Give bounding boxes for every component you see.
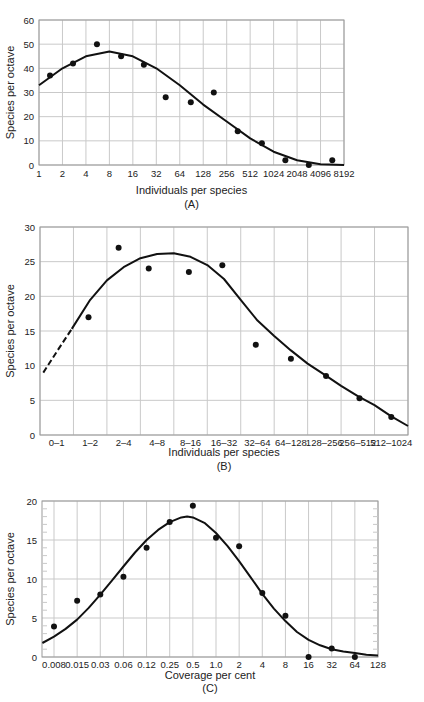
data-point bbox=[141, 62, 147, 68]
svg-text:512–1024: 512–1024 bbox=[370, 437, 412, 448]
x-axis-label: Individuals per species bbox=[136, 184, 248, 196]
y-axis-ticks: 05101520 bbox=[26, 496, 37, 663]
svg-text:60: 60 bbox=[23, 15, 34, 26]
grid bbox=[42, 501, 378, 657]
svg-text:16: 16 bbox=[303, 659, 314, 670]
y-axis-label: Species per octave bbox=[4, 284, 16, 378]
data-point bbox=[235, 128, 241, 134]
data-point bbox=[259, 590, 265, 596]
data-point bbox=[70, 61, 76, 67]
svg-text:20: 20 bbox=[26, 496, 37, 507]
svg-text:8: 8 bbox=[283, 659, 288, 670]
y-axis-label: Species per octave bbox=[4, 46, 16, 140]
data-point bbox=[116, 245, 122, 251]
data-points bbox=[86, 245, 395, 420]
grid bbox=[40, 227, 408, 435]
svg-text:25: 25 bbox=[24, 256, 35, 267]
species-abundance-figure: 0102030405060124816326412825651210242048… bbox=[0, 0, 424, 702]
svg-text:128: 128 bbox=[370, 659, 386, 670]
data-point bbox=[146, 266, 152, 272]
figure-caption: (B) bbox=[217, 460, 232, 472]
data-point bbox=[329, 157, 335, 163]
svg-text:50: 50 bbox=[23, 39, 34, 50]
figure-caption: (A) bbox=[184, 198, 199, 210]
svg-text:1: 1 bbox=[36, 168, 41, 179]
svg-text:0.12: 0.12 bbox=[137, 659, 156, 670]
figure-caption: (C) bbox=[202, 682, 217, 694]
data-point bbox=[211, 90, 217, 96]
data-point bbox=[356, 395, 362, 401]
data-point bbox=[306, 654, 312, 660]
data-point bbox=[352, 654, 358, 660]
data-point bbox=[306, 162, 312, 168]
chart-a: 0102030405060124816326412825651210242048… bbox=[4, 15, 355, 211]
data-points bbox=[51, 503, 358, 660]
data-points bbox=[47, 41, 335, 168]
data-point bbox=[47, 73, 53, 79]
data-point bbox=[118, 53, 124, 59]
svg-text:0.008: 0.008 bbox=[42, 659, 66, 670]
svg-text:0.06: 0.06 bbox=[114, 659, 133, 670]
svg-text:2: 2 bbox=[60, 168, 65, 179]
svg-text:2–4: 2–4 bbox=[116, 437, 132, 448]
data-point bbox=[51, 624, 57, 630]
svg-text:4: 4 bbox=[83, 168, 88, 179]
svg-text:0: 0 bbox=[29, 160, 34, 171]
fitted-curve bbox=[42, 517, 378, 656]
svg-text:10: 10 bbox=[23, 135, 34, 146]
svg-text:5: 5 bbox=[30, 395, 35, 406]
svg-text:8192: 8192 bbox=[333, 168, 354, 179]
chart-b: 0510152025300–11–22–44–88–1616–3232–6464… bbox=[4, 222, 412, 473]
data-point bbox=[253, 342, 259, 348]
svg-text:128–256: 128–256 bbox=[306, 437, 343, 448]
svg-text:10: 10 bbox=[26, 574, 37, 585]
svg-text:4: 4 bbox=[260, 659, 265, 670]
svg-text:64: 64 bbox=[174, 168, 185, 179]
svg-text:16: 16 bbox=[128, 168, 139, 179]
data-point bbox=[259, 140, 265, 146]
data-point bbox=[388, 414, 394, 420]
data-point bbox=[120, 574, 126, 580]
x-axis-ticks: 12481632641282565121024204840968192 bbox=[36, 168, 354, 179]
svg-text:4096: 4096 bbox=[310, 168, 331, 179]
svg-text:1024: 1024 bbox=[263, 168, 284, 179]
data-point bbox=[86, 314, 92, 320]
svg-text:1–2: 1–2 bbox=[82, 437, 98, 448]
data-point bbox=[329, 645, 335, 651]
x-axis-label: Individuals per species bbox=[168, 446, 280, 458]
svg-text:8: 8 bbox=[107, 168, 112, 179]
svg-text:256: 256 bbox=[219, 168, 235, 179]
grid bbox=[39, 20, 344, 165]
svg-text:20: 20 bbox=[24, 291, 35, 302]
y-axis-ticks: 0102030405060 bbox=[23, 15, 34, 171]
svg-text:0.03: 0.03 bbox=[91, 659, 110, 670]
svg-text:4–8: 4–8 bbox=[149, 437, 165, 448]
svg-text:40: 40 bbox=[23, 63, 34, 74]
svg-text:128: 128 bbox=[195, 168, 211, 179]
data-point bbox=[188, 99, 194, 105]
svg-text:32: 32 bbox=[151, 168, 162, 179]
svg-text:5: 5 bbox=[32, 613, 37, 624]
svg-text:0.015: 0.015 bbox=[65, 659, 89, 670]
data-point bbox=[186, 269, 192, 275]
data-point bbox=[236, 543, 242, 549]
data-point bbox=[94, 41, 100, 47]
svg-text:15: 15 bbox=[24, 326, 35, 337]
svg-text:0: 0 bbox=[30, 430, 35, 441]
data-point bbox=[190, 503, 196, 509]
svg-text:0: 0 bbox=[32, 652, 37, 663]
svg-text:20: 20 bbox=[23, 111, 34, 122]
svg-text:512: 512 bbox=[242, 168, 258, 179]
chart-c: 051015200.0080.0150.030.060.120.250.51.0… bbox=[4, 496, 386, 695]
x-axis-label: Coverage per cent bbox=[165, 669, 256, 681]
data-point bbox=[97, 592, 103, 598]
y-axis-ticks: 051015202530 bbox=[24, 222, 35, 441]
svg-text:15: 15 bbox=[26, 535, 37, 546]
svg-text:0–1: 0–1 bbox=[49, 437, 65, 448]
svg-text:64: 64 bbox=[350, 659, 361, 670]
data-point bbox=[282, 613, 288, 619]
data-point bbox=[74, 598, 80, 604]
svg-text:10: 10 bbox=[24, 360, 35, 371]
svg-text:30: 30 bbox=[24, 222, 35, 233]
svg-text:64–128: 64–128 bbox=[275, 437, 307, 448]
